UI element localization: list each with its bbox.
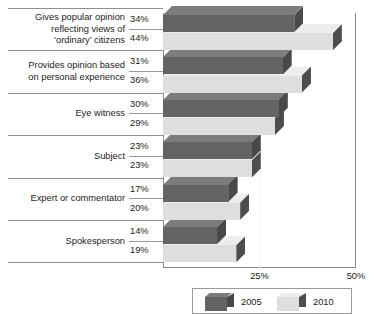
- category-label-line: Provides opinion based: [8, 60, 125, 71]
- value-label-2005: 23%: [130, 141, 158, 151]
- category-label-line: reflecting views of: [8, 24, 125, 35]
- category-separator: [8, 178, 163, 179]
- value-separator: [129, 198, 163, 199]
- category-label: Subject: [8, 151, 125, 162]
- category-label: Gives popular opinionreflecting views of…: [8, 12, 125, 46]
- bar-front-face: [163, 33, 333, 50]
- value-label-2005: 34%: [130, 14, 158, 24]
- x-axis-tick-50: 50%: [336, 271, 376, 281]
- bar-2005-3: [163, 142, 261, 159]
- value-label-2010: 20%: [130, 203, 158, 213]
- category-separator: [8, 93, 163, 94]
- bar-front-face: [163, 227, 217, 244]
- category-separator: [8, 8, 163, 9]
- category-label-line: Eye witness: [8, 108, 125, 119]
- value-label-2005: 30%: [130, 99, 158, 109]
- bar-front-face: [163, 76, 302, 93]
- value-label-2010: 19%: [130, 245, 158, 255]
- bar-top-face: [163, 6, 303, 15]
- bar-2005-1: [163, 57, 292, 74]
- legend-label-2005: 2005: [241, 297, 262, 307]
- category-label-table: Gives popular opinionreflecting views of…: [8, 4, 163, 268]
- value-separator: [129, 241, 163, 242]
- value-separator: [129, 71, 163, 72]
- bar-2010-3: [163, 160, 261, 177]
- bar-front-face: [163, 142, 252, 159]
- value-separator: [129, 113, 163, 114]
- category-separator: [8, 50, 163, 51]
- legend-label-2010: 2010: [313, 297, 334, 307]
- category-label: Expert or commentator: [8, 193, 125, 204]
- value-label-2005: 14%: [130, 226, 158, 236]
- value-separator: [129, 29, 163, 30]
- value-label-2005: 31%: [130, 56, 158, 66]
- plot-area: [163, 4, 356, 268]
- bar-chart: Gives popular opinionreflecting views of…: [0, 0, 389, 314]
- legend: 2005 2010: [192, 288, 352, 314]
- category-label: Spokesperson: [8, 236, 125, 247]
- legend-swatch-2010: [277, 297, 299, 311]
- bar-front-face: [163, 203, 240, 220]
- category-label-line: Subject: [8, 151, 125, 162]
- bar-front-face: [163, 57, 283, 74]
- category-label-line: Expert or commentator: [8, 193, 125, 204]
- value-label-2005: 17%: [130, 184, 158, 194]
- bar-front-face: [163, 160, 252, 177]
- bar-2005-0: [163, 15, 303, 32]
- value-label-2010: 29%: [130, 118, 158, 128]
- category-separator: [8, 262, 163, 263]
- bar-front-face: [163, 15, 294, 32]
- bar-2010-5: [163, 245, 245, 262]
- x-axis-tick-25: 25%: [240, 271, 280, 281]
- bar-2010-1: [163, 76, 311, 93]
- bar-2010-4: [163, 203, 249, 220]
- bar-front-face: [163, 245, 236, 262]
- legend-swatch-2005: [205, 297, 227, 311]
- bar-front-face: [163, 185, 229, 202]
- category-separator: [8, 135, 163, 136]
- category-label: Provides opinion basedon personal experi…: [8, 60, 125, 83]
- bar-front-face: [163, 100, 279, 117]
- value-separator: [129, 156, 163, 157]
- category-separator: [8, 220, 163, 221]
- bar-2005-4: [163, 185, 238, 202]
- value-label-2010: 23%: [130, 160, 158, 170]
- bar-2005-5: [163, 227, 226, 244]
- bar-front-face: [163, 118, 275, 135]
- bar-2010-0: [163, 33, 342, 50]
- category-label-line: Gives popular opinion: [8, 12, 125, 23]
- bar-2010-2: [163, 118, 284, 135]
- value-label-2010: 36%: [130, 75, 158, 85]
- value-label-2010: 44%: [130, 33, 158, 43]
- category-label-line: ‘ordinary’ citizens: [8, 35, 125, 46]
- bar-2005-2: [163, 100, 288, 117]
- category-label-line: Spokesperson: [8, 236, 125, 247]
- category-label: Eye witness: [8, 108, 125, 119]
- category-label-line: on personal experience: [8, 72, 125, 83]
